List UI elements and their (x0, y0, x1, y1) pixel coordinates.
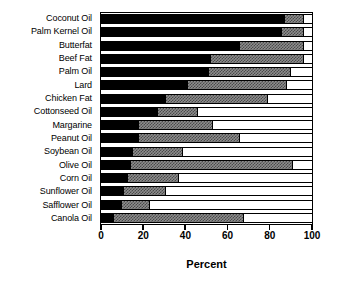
stacked-bars (101, 13, 312, 224)
bar-row (101, 54, 312, 64)
y-axis-labels: Coconut Oil Palm Kernel Oil Butterfat Be… (0, 12, 96, 225)
bar-row (101, 41, 312, 51)
bar-segment (240, 134, 312, 142)
bar-segment (304, 28, 312, 36)
bar-segment (128, 174, 179, 182)
bar-segment (101, 161, 131, 169)
bar-segment (285, 15, 304, 23)
chart-container: Coconut Oil Palm Kernel Oil Butterfat Be… (0, 0, 339, 283)
y-axis-tick-label: Peanut Oil (0, 132, 96, 145)
bar-segment (101, 28, 282, 36)
y-axis-tick-label: Butterfat (0, 39, 96, 52)
bar-segment (293, 161, 312, 169)
bar-segment (122, 201, 149, 209)
bar-segment (240, 42, 303, 50)
bar-row (101, 147, 312, 157)
x-axis-tick-label: 40 (180, 230, 191, 241)
y-axis-tick-label: Palm Kernel Oil (0, 25, 96, 38)
bar-segment (268, 95, 312, 103)
bar-segment (124, 187, 166, 195)
bar-row (101, 107, 312, 117)
bar-segment (101, 148, 133, 156)
bar-row (101, 67, 312, 77)
y-axis-tick-label: Lard (0, 79, 96, 92)
bar-segment (101, 42, 240, 50)
y-axis-tick-label: Beef Fat (0, 52, 96, 65)
bar-row (101, 173, 312, 183)
bar-segment (158, 108, 198, 116)
x-axis-title: Percent (100, 258, 313, 270)
y-axis-tick-label: Chicken Fat (0, 92, 96, 105)
bar-segment (101, 214, 114, 222)
bar-segment (282, 28, 303, 36)
bar-segment (304, 55, 312, 63)
y-axis-tick-label: Corn Oil (0, 172, 96, 185)
bar-segment (166, 95, 267, 103)
y-axis-tick-label: Soybean Oil (0, 145, 96, 158)
bar-segment (139, 134, 240, 142)
bar-segment (101, 121, 139, 129)
bar-segment (101, 81, 188, 89)
bar-segment (101, 174, 128, 182)
bar-segment (131, 161, 293, 169)
bar-segment (101, 55, 211, 63)
bar-segment (213, 121, 312, 129)
bar-row (101, 27, 312, 37)
bar-row (101, 94, 312, 104)
y-axis-tick-label: Palm Oil (0, 65, 96, 78)
y-axis-tick-label: Cottonseed Oil (0, 105, 96, 118)
bar-segment (198, 108, 312, 116)
plot-area (100, 12, 313, 225)
x-axis-tick-label: 100 (304, 230, 321, 241)
bar-segment (101, 95, 166, 103)
bar-segment (166, 187, 312, 195)
bar-segment (101, 134, 139, 142)
bar-row (101, 80, 312, 90)
x-axis-tick-label: 20 (138, 230, 149, 241)
bar-segment (133, 148, 184, 156)
bar-row (101, 133, 312, 143)
bar-row (101, 186, 312, 196)
x-axis-tick-label: 80 (264, 230, 275, 241)
y-axis-tick-label: Sunflower Oil (0, 185, 96, 198)
bar-segment (150, 201, 312, 209)
bar-segment (139, 121, 213, 129)
bar-segment (101, 15, 285, 23)
x-axis-tick-label: 0 (98, 230, 104, 241)
bar-segment (211, 55, 304, 63)
bar-segment (188, 81, 287, 89)
bar-segment (114, 214, 245, 222)
bar-segment (101, 68, 209, 76)
bar-row (101, 160, 312, 170)
y-axis-tick-label: Olive Oil (0, 158, 96, 171)
bar-segment (291, 68, 312, 76)
bar-segment (101, 187, 124, 195)
bar-segment (304, 15, 312, 23)
bar-segment (101, 108, 158, 116)
bar-segment (101, 201, 122, 209)
bar-row (101, 200, 312, 210)
x-axis: 020406080100 (100, 225, 313, 243)
y-axis-tick-label: Canola Oil (0, 212, 96, 225)
bar-row (101, 14, 312, 24)
bar-segment (179, 174, 312, 182)
bar-segment (244, 214, 312, 222)
bar-segment (209, 68, 291, 76)
bar-segment (183, 148, 312, 156)
y-axis-tick-label: Margarine (0, 119, 96, 132)
y-axis-tick-label: Coconut Oil (0, 12, 96, 25)
bar-row (101, 120, 312, 130)
y-axis-tick-label: Safflower Oil (0, 198, 96, 211)
x-axis-tick-label: 60 (222, 230, 233, 241)
bar-segment (304, 42, 312, 50)
bar-segment (287, 81, 312, 89)
bar-row (101, 213, 312, 223)
